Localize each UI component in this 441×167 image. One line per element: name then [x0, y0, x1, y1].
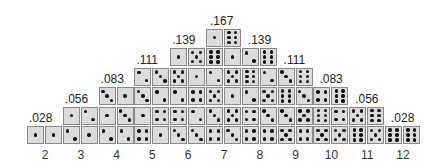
die-face-3: [188, 126, 205, 144]
die-face-3: [152, 68, 169, 86]
pip: [288, 99, 291, 102]
die-face-5: [296, 107, 313, 125]
pip: [335, 99, 338, 102]
pip: [217, 118, 220, 121]
pip: [84, 110, 87, 113]
pip: [324, 90, 327, 93]
pip: [245, 118, 248, 121]
pip: [342, 110, 345, 113]
pip: [34, 133, 37, 136]
pip: [235, 118, 238, 121]
pip: [317, 119, 320, 122]
die-face-3: [278, 68, 295, 86]
sum-label: 12: [385, 148, 421, 162]
pip: [284, 114, 287, 117]
pip: [209, 99, 212, 102]
die-face-6: [278, 87, 295, 105]
die-face-1: [188, 68, 205, 86]
pip: [177, 55, 180, 58]
pip: [406, 138, 409, 141]
pip: [356, 114, 359, 117]
pip: [307, 99, 310, 102]
pip: [302, 114, 305, 117]
probability-label: .111: [136, 53, 158, 67]
die-face-1: [206, 29, 223, 47]
pip: [163, 110, 166, 113]
pip: [216, 50, 219, 53]
pip: [245, 80, 248, 83]
die-face-4: [188, 87, 205, 105]
pip: [235, 79, 238, 82]
pip: [181, 138, 184, 141]
pip: [195, 133, 198, 136]
pip: [252, 129, 255, 132]
pip: [352, 109, 355, 112]
pip: [245, 51, 248, 54]
pip: [317, 109, 320, 112]
pip: [353, 138, 356, 141]
die-face-3: [260, 107, 277, 125]
pip: [145, 99, 148, 102]
probability-label: .028: [391, 111, 414, 125]
pip: [91, 118, 94, 121]
pip: [288, 138, 291, 141]
die-face-4: [331, 107, 348, 125]
pip: [217, 90, 220, 93]
sum-label: 10: [313, 148, 349, 162]
pip: [252, 110, 255, 113]
die-face-6: [403, 126, 420, 144]
sum-label: 8: [242, 148, 278, 162]
pip: [284, 75, 287, 78]
die-face-1: [170, 48, 187, 66]
pip: [316, 129, 319, 132]
pip: [245, 75, 248, 78]
pip: [342, 138, 345, 141]
pip: [320, 133, 323, 136]
die-face-1: [224, 87, 241, 105]
die-face-5: [278, 126, 295, 144]
pip: [173, 129, 176, 132]
pip: [298, 118, 301, 121]
probability-label: .083: [101, 72, 124, 86]
sum-label: 6: [170, 148, 206, 162]
pip: [173, 79, 176, 82]
pip: [191, 110, 194, 113]
pip: [231, 114, 234, 117]
die-face-1: [27, 126, 44, 144]
die-face-6: [367, 107, 384, 125]
pip: [155, 70, 158, 73]
pip: [216, 60, 219, 63]
pip: [252, 70, 255, 73]
pip: [199, 90, 202, 93]
die-face-2: [242, 48, 259, 66]
die-face-2: [134, 68, 151, 86]
pip: [227, 31, 230, 34]
pip: [231, 133, 234, 136]
pip: [359, 138, 362, 141]
pip: [120, 129, 123, 132]
pip: [334, 129, 337, 132]
pip: [263, 50, 266, 53]
pip: [377, 114, 380, 117]
die-face-4: [260, 126, 277, 144]
pip: [137, 71, 140, 74]
sum-label: 11: [349, 148, 385, 162]
pip: [159, 133, 162, 136]
pip: [123, 94, 126, 97]
pip: [370, 114, 373, 117]
die-face-2: [152, 87, 169, 105]
die-face-6: [242, 68, 259, 86]
pip: [217, 129, 220, 132]
die-face-3: [278, 107, 295, 125]
pip: [271, 118, 274, 121]
pip: [173, 110, 176, 113]
pip: [374, 133, 377, 136]
pip: [263, 71, 266, 74]
pip: [181, 98, 184, 101]
pip: [280, 70, 283, 73]
probability-label: .083: [319, 72, 342, 86]
pip: [334, 138, 337, 141]
pip: [281, 89, 284, 92]
pip: [209, 50, 212, 53]
pip: [377, 119, 380, 122]
